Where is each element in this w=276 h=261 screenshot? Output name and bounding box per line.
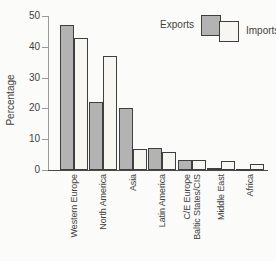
y-tick xyxy=(42,108,48,109)
y-axis-title: Percentage xyxy=(5,64,17,136)
y-tick xyxy=(42,139,48,140)
x-axis-label: North America xyxy=(98,174,108,260)
y-tick xyxy=(42,78,48,79)
bar-imports-6 xyxy=(221,161,235,170)
bar-exports-7 xyxy=(236,169,250,171)
y-tick-label: 0 xyxy=(18,164,40,176)
x-axis-label: Latin America xyxy=(157,174,167,260)
legend-label-imports: Imports xyxy=(246,25,276,37)
x-axis-label: Africa xyxy=(245,174,255,260)
bar-imports-3 xyxy=(133,149,147,170)
y-tick-label: 10 xyxy=(18,133,40,145)
y-tick-label: 50 xyxy=(18,10,40,22)
bar-exports-1 xyxy=(60,25,74,170)
x-axis-line xyxy=(48,170,268,171)
y-tick-label: 40 xyxy=(18,41,40,53)
bar-exports-4 xyxy=(148,148,162,170)
y-tick xyxy=(42,47,48,48)
bar-imports-2 xyxy=(103,56,117,170)
bar-imports-4 xyxy=(162,152,176,170)
bar-exports-3 xyxy=(119,108,133,170)
y-tick-label: 30 xyxy=(18,72,40,84)
bar-exports-5 xyxy=(178,160,192,170)
y-axis-line xyxy=(48,16,49,170)
bar-imports-1 xyxy=(74,38,88,170)
y-tick-label: 20 xyxy=(18,102,40,114)
y-tick xyxy=(42,16,48,17)
x-axis-label: C/E Europe Baltic States/CIS xyxy=(182,174,202,260)
legend-label-exports: Exports xyxy=(156,19,194,31)
bar-exports-6 xyxy=(207,168,221,170)
legend-swatch-exports xyxy=(201,15,221,36)
x-axis-label: Asia xyxy=(128,174,138,260)
x-axis-label: Middle East xyxy=(216,174,226,260)
y-tick xyxy=(42,170,48,171)
bar-imports-7 xyxy=(250,164,264,170)
x-axis-label: Western Europe xyxy=(69,174,79,260)
bar-chart: Percentage 01020304050 Western EuropeNor… xyxy=(0,0,276,261)
bar-imports-5 xyxy=(192,160,206,170)
bar-exports-2 xyxy=(89,102,103,170)
legend-swatch-imports xyxy=(219,21,239,42)
